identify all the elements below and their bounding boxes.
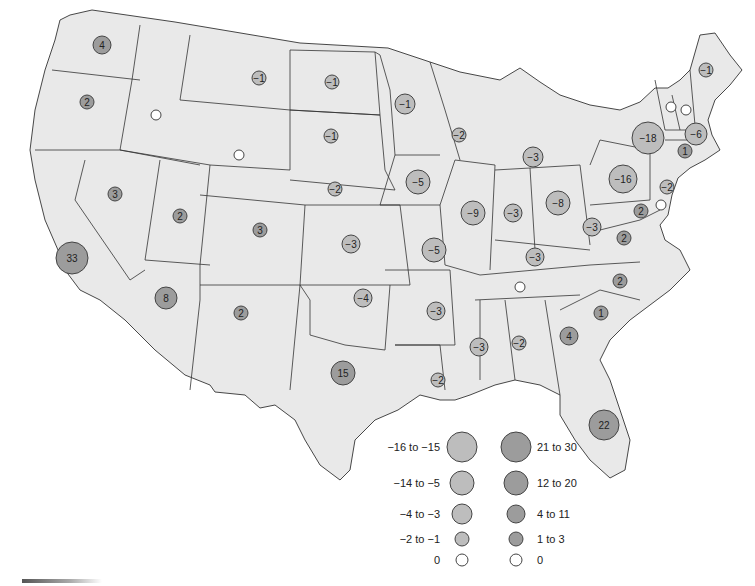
bubble-sc: 1 [594, 306, 608, 320]
bubble-value: −1 [253, 73, 265, 84]
bubble-oh: −8 [546, 191, 570, 215]
bubble-mo: −5 [422, 238, 446, 262]
legend: −16 to −15−14 to −5−4 to −3−2 to −1021 t… [387, 432, 576, 566]
bubble-value: 2 [617, 276, 623, 287]
bubble-wy [234, 150, 244, 160]
bubble-nh [681, 105, 691, 115]
legend-neg-label: 0 [434, 554, 440, 566]
legend-pos-swatch [501, 432, 531, 462]
legend-neg-swatch [452, 504, 472, 524]
bubble-value: −3 [345, 239, 357, 250]
bubble-wa: 4 [93, 36, 111, 54]
bubble-value: −4 [357, 293, 369, 304]
legend-neg-swatch [447, 432, 477, 462]
bubble-nc: 2 [613, 274, 627, 288]
bubble-ga: 4 [560, 327, 578, 345]
bubble-value: −2 [453, 130, 465, 141]
bubble-value: 2 [621, 233, 627, 244]
bubble-value: −1 [399, 99, 411, 110]
legend-neg-label: −4 to −3 [400, 508, 440, 520]
bubble-ky: −3 [526, 248, 544, 266]
bubble-value: −9 [467, 208, 479, 219]
bubble-value: −5 [412, 177, 424, 188]
bubble-value: 8 [163, 293, 169, 304]
legend-neg-swatch [450, 471, 474, 495]
legend-neg-label: −2 to −1 [400, 533, 440, 545]
bubble-circle [515, 282, 525, 292]
legend-neg-swatch [455, 532, 469, 546]
bubble-value: 2 [638, 206, 644, 217]
legend-pos-label: 12 to 20 [537, 477, 577, 489]
bubble-ct: 1 [678, 144, 692, 158]
bubble-az: 8 [155, 287, 177, 309]
legend-pos-swatch [509, 532, 523, 546]
bubble-mn: −1 [395, 94, 415, 114]
bubble-ok: −4 [354, 289, 372, 307]
bubble-value: 33 [66, 253, 78, 264]
bubble-value: −3 [430, 306, 442, 317]
bubble-ia: −5 [406, 170, 430, 194]
bubble-va: 2 [617, 231, 631, 245]
bubble-value: −1 [325, 131, 337, 142]
bubble-wi: −2 [452, 128, 466, 142]
bubble-circle [656, 200, 666, 210]
bubble-nm: 2 [234, 306, 248, 320]
bubble-ca: 33 [56, 242, 88, 274]
bubble-value: 3 [112, 189, 118, 200]
bubble-mt: −1 [252, 71, 266, 85]
scale-bar [22, 579, 102, 583]
bubble-value: 22 [598, 420, 610, 431]
bubble-or: 2 [80, 95, 94, 109]
legend-pos-swatch [510, 554, 522, 566]
legend-pos-swatch [504, 471, 528, 495]
bubble-value: −5 [428, 245, 440, 256]
legend-pos-label: 4 to 11 [537, 508, 570, 520]
bubble-circle [234, 150, 244, 160]
bubble-fl: 22 [589, 410, 619, 440]
legend-neg-label: −14 to −5 [394, 477, 441, 489]
bubble-wv: −3 [583, 218, 601, 236]
us-map: 42−1−1−1−1−2−333323−2−5−9−3−8−16−18−1−61… [0, 0, 755, 586]
bubble-value: −2 [432, 375, 444, 386]
bubble-pa: −16 [609, 165, 637, 193]
bubble-circle [151, 110, 161, 120]
bubble-tn [515, 282, 525, 292]
bubble-value: −1 [326, 77, 338, 88]
bubble-al: −2 [512, 336, 526, 350]
bubble-value: 2 [238, 308, 244, 319]
legend-pos-label: 1 to 3 [537, 533, 565, 545]
bubble-in: −3 [504, 204, 522, 222]
bubble-vt [666, 102, 676, 112]
bubble-ne: −2 [328, 182, 342, 196]
states-layer [30, 10, 742, 480]
bubble-value: 4 [99, 40, 105, 51]
bubble-ar: −3 [427, 302, 445, 320]
legend-pos-label: 21 to 30 [537, 441, 577, 453]
bubble-circle [666, 102, 676, 112]
legend-neg-swatch [456, 554, 468, 566]
legend-pos-swatch [507, 505, 525, 523]
bubble-value: −3 [586, 222, 598, 233]
bubble-value: −16 [615, 174, 632, 185]
bubble-co: 3 [253, 223, 267, 237]
bubble-value: −3 [527, 152, 539, 163]
bubble-value: −3 [473, 342, 485, 353]
legend-pos-label: 0 [537, 554, 543, 566]
us-outline [30, 10, 742, 480]
bubble-value: −2 [329, 184, 341, 195]
bubble-value: −2 [513, 338, 525, 349]
bubble-value: 1 [598, 308, 604, 319]
bubble-de [656, 200, 666, 210]
bubble-mi: −3 [523, 147, 543, 167]
bubble-value: −1 [700, 65, 712, 76]
bubble-value: −3 [529, 252, 541, 263]
legend-neg-label: −16 to −15 [387, 441, 440, 453]
bubble-value: 2 [177, 211, 183, 222]
bubble-value: −6 [690, 129, 702, 140]
bubble-value: −3 [507, 208, 519, 219]
bubble-value: −18 [640, 133, 657, 144]
bubble-value: 15 [337, 368, 349, 379]
bubble-value: −2 [661, 182, 673, 193]
bubble-il: −9 [461, 201, 485, 225]
bubble-value: −8 [552, 198, 564, 209]
